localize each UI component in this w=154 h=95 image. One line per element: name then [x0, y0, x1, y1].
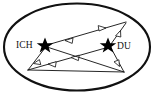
- arrowhead-toward-topright: [98, 26, 106, 31]
- relationship-diagram: ICH DU: [0, 0, 154, 95]
- edge-ich-bottomleft: [28, 48, 45, 70]
- edge-bottomleft-bottomright: [28, 70, 124, 72]
- star-marker-ich: [37, 38, 54, 53]
- diagram-canvas: ICH DU: [0, 0, 154, 95]
- arrowhead-du-down: [114, 60, 120, 67]
- edge-du-bottomleft: [28, 47, 109, 70]
- arrowhead-du-bottomleft-lower: [48, 62, 56, 67]
- edge-ich-topright: [47, 22, 126, 45]
- node-label-du: DU: [117, 41, 131, 51]
- arrowhead-toward-ich: [65, 38, 73, 43]
- arrowhead-topright-up: [116, 31, 121, 38]
- node-label-ich: ICH: [16, 40, 33, 50]
